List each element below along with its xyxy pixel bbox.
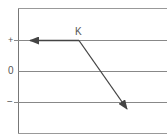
plus-label: + bbox=[8, 35, 13, 45]
minus-label: − bbox=[7, 97, 13, 107]
diagram-canvas bbox=[0, 0, 167, 138]
zero-label: 0 bbox=[8, 66, 14, 76]
diagonal-arrow bbox=[79, 41, 127, 110]
point-k-label: K bbox=[75, 27, 82, 37]
